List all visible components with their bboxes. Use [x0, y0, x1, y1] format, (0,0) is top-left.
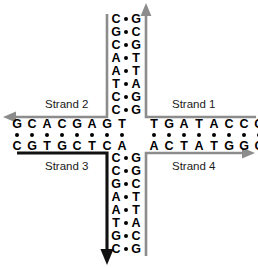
holliday-junction-figure: C G C A A T C C G C G T T A G G C C G A …: [0, 0, 258, 268]
arrowhead-right-icon: [242, 148, 255, 159]
strand-3-backbone: [17, 153, 114, 265]
strand-backbones: [0, 0, 258, 268]
arrowhead-up-icon: [141, 3, 152, 16]
strand-4-backbone: [146, 148, 255, 256]
strand-2-backbone: [3, 14, 107, 122]
strand-1-backbone: [141, 3, 256, 117]
arrowhead-down-icon: [100, 249, 113, 265]
arrowhead-left-icon: [3, 112, 16, 123]
